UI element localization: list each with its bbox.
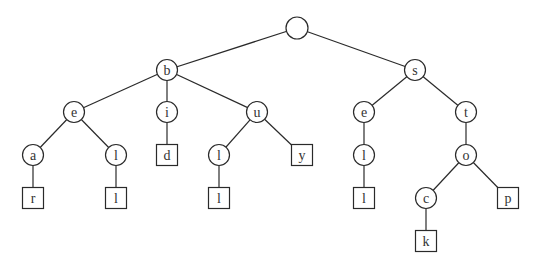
node-se: e <box>354 102 375 123</box>
node-label: r <box>31 191 36 206</box>
node-label: t <box>464 105 468 120</box>
node-bul: l <box>209 145 230 166</box>
edge-b-be <box>74 70 167 112</box>
node-label: p <box>505 191 512 206</box>
node-be: e <box>64 102 85 123</box>
leaf-node-bear: r <box>23 188 44 209</box>
node-label: u <box>254 105 261 120</box>
node-label: l <box>217 191 221 206</box>
node-label: a <box>30 148 37 163</box>
edges <box>33 28 508 241</box>
leaf-node-buy: y <box>292 145 313 166</box>
node-label: c <box>423 191 429 206</box>
node-st: t <box>456 102 477 123</box>
leaf-node-stop: p <box>498 188 519 209</box>
node-bel: l <box>106 145 127 166</box>
trie-diagram: bseiuetaldlylorlllcpk <box>0 0 543 266</box>
node-label: i <box>165 105 169 120</box>
node-label: e <box>71 105 77 120</box>
trie-diagram-svg: bseiuetaldlylorlllcpk <box>0 0 543 266</box>
node-label: l <box>114 191 118 206</box>
node-bea: a <box>23 145 44 166</box>
node-label: l <box>362 148 366 163</box>
node-bi: i <box>157 102 178 123</box>
leaf-node-sell: l <box>354 188 375 209</box>
node-stoc: c <box>416 188 437 209</box>
node-bu: u <box>247 102 268 123</box>
node-b: b <box>157 60 178 81</box>
node-label: k <box>423 234 430 249</box>
node-root <box>286 17 308 39</box>
node-label: l <box>114 148 118 163</box>
node-s: s <box>405 60 426 81</box>
node-label: s <box>412 63 417 78</box>
leaf-node-stock: k <box>416 231 437 252</box>
node-label: b <box>164 63 171 78</box>
node-label: l <box>362 191 366 206</box>
nodes: bseiuetaldlylorlllcpk <box>23 17 519 252</box>
node-sel: l <box>354 145 375 166</box>
circle-shape <box>286 17 308 39</box>
leaf-node-bell: l <box>106 188 127 209</box>
node-label: y <box>299 148 306 163</box>
node-label: d <box>164 148 171 163</box>
edge-root-s <box>297 28 415 70</box>
edge-root-b <box>167 28 297 70</box>
node-label: l <box>217 148 221 163</box>
node-label: e <box>361 105 367 120</box>
leaf-node-bid: d <box>157 145 178 166</box>
edge-b-bu <box>167 70 257 112</box>
node-label: o <box>463 148 470 163</box>
node-sto: o <box>456 145 477 166</box>
leaf-node-bull: l <box>209 188 230 209</box>
